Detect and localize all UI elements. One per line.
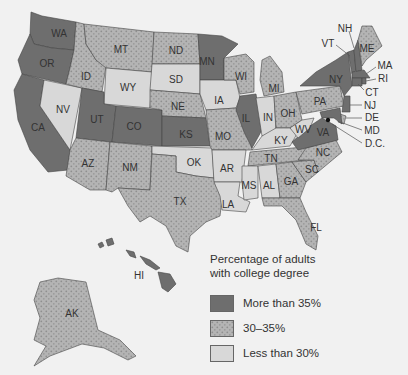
svg-text:AK: AK (65, 308, 79, 319)
svg-text:MT: MT (114, 44, 128, 55)
svg-text:CT: CT (365, 87, 378, 98)
legend-label-high: More than 35% (243, 297, 321, 309)
swatch-mid (210, 320, 234, 337)
svg-text:WY: WY (120, 82, 136, 93)
svg-text:OH: OH (281, 108, 296, 119)
svg-text:IL: IL (242, 113, 251, 124)
svg-text:LA: LA (222, 199, 235, 210)
state-ct (352, 78, 362, 86)
svg-text:AR: AR (220, 163, 234, 174)
svg-text:WA: WA (51, 28, 67, 39)
svg-text:NY: NY (329, 74, 343, 85)
svg-text:TN: TN (264, 153, 277, 164)
state-ak (34, 278, 136, 366)
svg-text:MD: MD (364, 125, 380, 136)
legend-item-mid: 30–35% (210, 317, 400, 339)
legend-item-high: More than 35% (210, 292, 400, 314)
svg-text:IN: IN (263, 112, 273, 123)
legend-title-line2: with college degree (210, 266, 400, 280)
svg-text:RI: RI (378, 73, 388, 84)
swatch-low (210, 345, 234, 362)
svg-text:DE: DE (365, 112, 379, 123)
svg-text:NV: NV (56, 104, 70, 115)
svg-text:CO: CO (127, 121, 142, 132)
svg-text:VT: VT (322, 38, 335, 49)
svg-text:ND: ND (169, 45, 183, 56)
svg-text:MA: MA (378, 60, 393, 71)
svg-text:ID: ID (81, 71, 91, 82)
svg-text:OR: OR (40, 58, 55, 69)
svg-text:TX: TX (174, 196, 187, 207)
svg-text:MO: MO (215, 131, 231, 142)
svg-text:NM: NM (122, 162, 138, 173)
svg-text:WI: WI (235, 71, 247, 82)
svg-text:NE: NE (171, 101, 185, 112)
svg-text:VA: VA (317, 127, 330, 138)
svg-text:UT: UT (90, 114, 103, 125)
svg-text:FL: FL (310, 222, 322, 233)
svg-text:CA: CA (31, 122, 45, 133)
legend-title: Percentage of adults with college degree (210, 252, 400, 280)
svg-text:KS: KS (179, 129, 193, 140)
svg-text:D.C.: D.C. (365, 138, 385, 149)
svg-text:PA: PA (314, 96, 327, 107)
svg-text:MN: MN (199, 56, 215, 67)
svg-text:SD: SD (169, 74, 183, 85)
legend-label-mid: 30–35% (243, 322, 285, 334)
state-nj (342, 96, 350, 112)
legend-label-low: Less than 30% (243, 347, 319, 359)
svg-text:IA: IA (214, 95, 224, 106)
svg-text:ME: ME (360, 43, 375, 54)
legend-title-line1: Percentage of adults (210, 252, 400, 266)
svg-text:OK: OK (187, 157, 202, 168)
legend-item-low: Less than 30% (210, 342, 400, 364)
svg-text:HI: HI (134, 270, 144, 281)
svg-text:NC: NC (316, 147, 330, 158)
svg-text:NJ: NJ (364, 100, 376, 111)
swatch-high (210, 295, 234, 312)
svg-text:AZ: AZ (82, 158, 95, 169)
svg-text:AL: AL (263, 180, 276, 191)
svg-text:KY: KY (274, 135, 288, 146)
svg-text:WV: WV (295, 124, 311, 135)
svg-text:MI: MI (268, 83, 279, 94)
svg-text:SC: SC (305, 164, 319, 175)
legend: Percentage of adults with college degree… (210, 252, 400, 367)
svg-text:GA: GA (284, 176, 299, 187)
state-dc (326, 118, 330, 122)
state-hi (98, 238, 176, 292)
state-ri (362, 78, 366, 84)
svg-text:MS: MS (242, 180, 257, 191)
svg-text:NH: NH (338, 23, 352, 34)
